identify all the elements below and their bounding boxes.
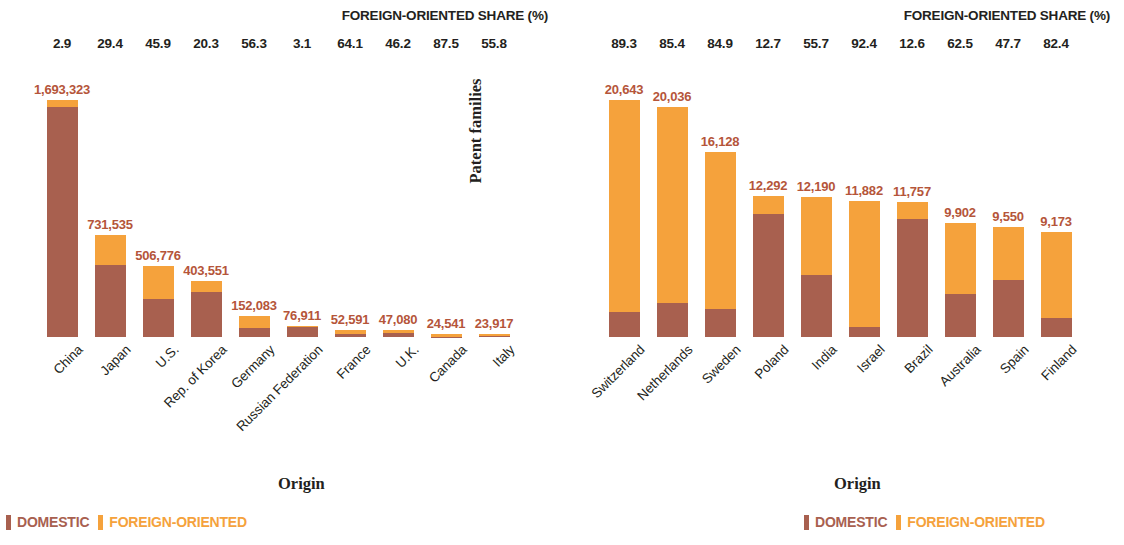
bar-australia: 9,902 [945,223,976,337]
bar-segment-foreign-oriented [1041,232,1072,319]
stacked-bar [95,235,126,337]
bar-finland: 9,173 [1041,232,1072,337]
x-tick-label: India [809,342,840,373]
stacked-bar [801,197,832,337]
bar-value-label: 9,550 [992,209,1024,224]
bar-segment-foreign-oriented [993,227,1024,279]
x-tick-label: Australia [936,342,983,389]
foreign-share-value: 46.2 [385,36,410,51]
bar-segment-foreign-oriented [143,266,174,299]
legend-item-foreign-oriented[interactable]: FOREIGN-ORIENTED [98,514,247,530]
bar-israel: 11,882 [849,201,880,337]
stacked-bar [1041,232,1072,337]
bar-segment-domestic [801,275,832,337]
foreign-share-value: 56.3 [241,36,266,51]
foreign-share-value: 87.5 [433,36,458,51]
bar-segment-foreign-oriented [191,281,222,292]
bar-value-label: 16,128 [701,134,740,149]
bar-netherlands: 20,036 [657,107,688,337]
stacked-bar [753,196,784,337]
stacked-bar [849,201,880,337]
bar-value-label: 11,882 [845,183,883,198]
bar-value-label: 12,292 [749,178,788,193]
bar-canada: 24,541 [431,334,462,337]
bar-poland: 12,292 [753,196,784,337]
bar-segment-domestic [657,303,688,337]
bar-value-label: 76,911 [283,308,321,323]
legend-label: DOMESTIC [17,514,89,530]
bar-segment-domestic [191,292,222,337]
bar-value-label: 403,551 [183,263,229,278]
bar-germany: 152,083 [239,316,270,337]
bar-value-label: 23,917 [475,316,514,331]
bar-value-label: 12,190 [797,179,836,194]
bar-segment-domestic [993,280,1024,337]
bar-segment-domestic [1041,318,1072,337]
x-tick-label: Canada [426,342,470,386]
foreign-share-value: 84.9 [707,36,732,51]
stacked-bar [993,227,1024,337]
bar-segment-foreign-oriented [801,197,832,275]
foreign-share-value: 92.4 [851,36,876,51]
x-tick-label: Poland [752,342,792,382]
foreign-share-value: 85.4 [659,36,684,51]
bar-segment-domestic [705,309,736,337]
bar-segment-domestic [143,299,174,337]
bar-value-label: 1,693,323 [34,82,90,97]
stacked-bar [897,202,928,337]
bar-france: 52,591 [335,330,366,337]
foreign-share-value: 20.3 [193,36,218,51]
bar-segment-domestic [383,333,414,337]
legend-item-foreign-oriented[interactable]: FOREIGN-ORIENTED [896,514,1045,530]
stacked-bar [945,223,976,337]
bar-segment-foreign-oriented [657,107,688,303]
y-axis-title: Patent families [465,21,487,241]
bar-sweden: 16,128 [705,152,736,337]
foreign-share-value: 3.1 [293,36,311,51]
bar-segment-foreign-oriented [609,100,640,312]
bar-segment-domestic [95,265,126,337]
x-tick-label: Sweden [699,342,744,387]
bar-value-label: 11,757 [893,184,931,199]
bar-value-label: 506,776 [135,248,181,263]
x-axis-tick-labels: ChinaJapanU.S.Rep. of KoreaGermanyRussia… [0,338,562,428]
bar-segment-foreign-oriented [705,152,736,309]
bar-segment-foreign-oriented [239,316,270,328]
legend-item-domestic[interactable]: DOMESTIC [804,514,887,530]
x-tick-label: France [334,342,374,382]
x-tick-label: Russian Federation [233,342,325,434]
legend: DOMESTICFOREIGN-ORIENTED [804,514,1045,530]
stacked-bar [47,100,78,337]
bar-value-label: 152,083 [231,298,277,313]
bar-segment-domestic [609,312,640,337]
bar-u-s: 506,776 [143,266,174,337]
bar-segment-domestic [897,219,928,337]
x-tick-label: Spain [997,342,1032,377]
bar-segment-foreign-oriented [849,201,880,327]
foreign-share-value: 82.4 [1043,36,1068,51]
foreign-share-value: 45.9 [145,36,170,51]
bar-switzerland: 20,643 [609,100,640,337]
bar-value-label: 24,541 [427,316,466,331]
legend-swatch-icon [804,515,809,530]
foreign-share-value: 64.1 [337,36,362,51]
bar-segment-domestic [479,336,510,337]
foreign-share-value: 62.5 [947,36,972,51]
x-tick-label: Israel [854,342,888,376]
bar-brazil: 11,757 [897,202,928,337]
legend-item-domestic[interactable]: DOMESTIC [6,514,89,530]
chart-panel-right: FOREIGN-ORIENTED SHARE (%) 89.385.484.91… [562,0,1124,545]
stacked-bar [287,326,318,337]
bar-segment-foreign-oriented [47,100,78,107]
x-tick-label: Finland [1038,342,1079,383]
bar-segment-domestic [753,214,784,337]
bar-japan: 731,535 [95,235,126,337]
stacked-bar [191,281,222,337]
foreign-share-value: 12.6 [899,36,924,51]
bar-italy: 23,917 [479,334,510,337]
bar-spain: 9,550 [993,227,1024,337]
x-tick-label: Germany [228,342,277,391]
bar-segment-domestic [335,334,366,337]
bar-segment-foreign-oriented [945,223,976,294]
plot-area: 20,64320,03616,12812,29212,19011,88211,7… [562,100,1124,337]
